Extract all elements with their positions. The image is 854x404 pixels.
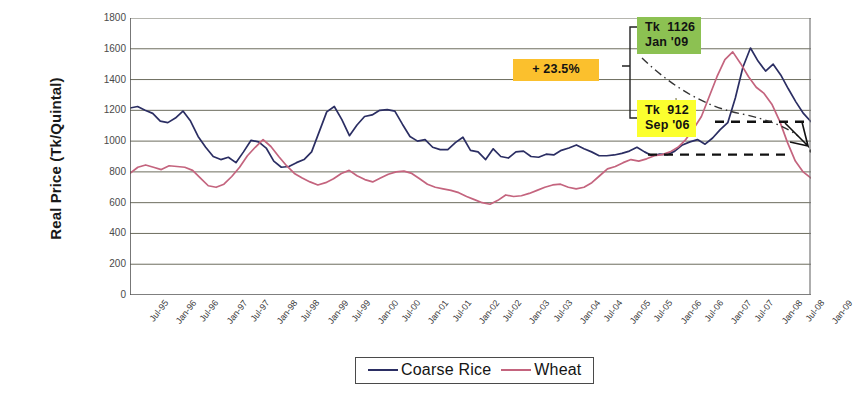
x-axis-tick-label: Jan-96 bbox=[174, 298, 199, 326]
x-axis-tick-label: Jan-98 bbox=[275, 298, 300, 326]
x-axis-tick-label: Jan-05 bbox=[628, 298, 653, 326]
legend-item-wheat: Wheat bbox=[501, 361, 581, 379]
chart-legend: Coarse Rice Wheat bbox=[355, 357, 594, 384]
x-axis-tick-label: Jul-97 bbox=[248, 298, 271, 323]
x-axis-tick-label: Jan-99 bbox=[325, 298, 350, 326]
gridlines bbox=[130, 18, 811, 295]
x-axis-tick-label: Jan-06 bbox=[678, 298, 703, 326]
trend-arrowhead bbox=[785, 122, 808, 146]
legend-swatch-wheat bbox=[501, 369, 531, 371]
y-axis-tick-label: 1800 bbox=[92, 13, 126, 23]
y-axis-title: Real Price (Tk/Quintal) bbox=[47, 9, 64, 309]
y-axis-tick-labels: 180016001400120010008006004002000 bbox=[88, 0, 126, 310]
x-axis-tick-label: Jul-07 bbox=[753, 298, 776, 323]
x-axis-tick-label: Jul-00 bbox=[400, 298, 423, 323]
series-line-wheat bbox=[130, 52, 811, 204]
x-axis-tick-label: Jan-04 bbox=[577, 298, 602, 326]
x-axis-tick-label: Jul-03 bbox=[551, 298, 574, 323]
x-axis-tick-label: Jul-05 bbox=[652, 298, 675, 323]
legend-label-coarse-rice: Coarse Rice bbox=[401, 361, 491, 379]
x-axis-tick-label: Jul-04 bbox=[601, 298, 624, 323]
x-axis-tick-label: Jul-06 bbox=[702, 298, 725, 323]
y-axis-tick-label: 800 bbox=[92, 167, 126, 177]
y-axis-tick-label: 0 bbox=[92, 290, 126, 300]
x-axis-tick-label: Jul-99 bbox=[349, 298, 372, 323]
y-axis-tick-label: 1400 bbox=[92, 75, 126, 85]
legend-label-wheat: Wheat bbox=[534, 361, 581, 379]
x-axis-tick-label: Jul-95 bbox=[147, 298, 170, 323]
x-axis-tick-label: Jan-08 bbox=[779, 298, 804, 326]
y-axis-tick-label: 200 bbox=[92, 259, 126, 269]
y-axis-tick-label: 1000 bbox=[92, 136, 126, 146]
x-axis-tick-label: Jan-09 bbox=[830, 298, 854, 326]
plot-area bbox=[130, 18, 811, 295]
x-axis-tick-label: Jan-00 bbox=[376, 298, 401, 326]
x-axis-tick-label: Jul-02 bbox=[501, 298, 524, 323]
series-line-coarse-rice bbox=[130, 48, 811, 167]
y-axis-tick-label: 1200 bbox=[92, 105, 126, 115]
legend-swatch-coarse-rice bbox=[368, 369, 398, 371]
plot-canvas bbox=[130, 18, 811, 295]
legend-item-coarse-rice: Coarse Rice bbox=[368, 361, 491, 379]
y-axis-tick-label: 400 bbox=[92, 228, 126, 238]
x-axis-tick-labels: Jul-95Jan-96Jul-96Jan-97Jul-97Jan-98Jul-… bbox=[130, 298, 820, 358]
x-axis-tick-label: Jul-01 bbox=[450, 298, 473, 323]
x-axis-tick-label: Jan-97 bbox=[224, 298, 249, 326]
y-axis-tick-label: 600 bbox=[92, 198, 126, 208]
x-axis-tick-label: Jan-07 bbox=[729, 298, 754, 326]
x-axis-tick-label: Jul-98 bbox=[299, 298, 322, 323]
x-axis-tick-label: Jan-01 bbox=[426, 298, 451, 326]
peak-price-callout: Tk 1126 Jan '09 bbox=[637, 17, 701, 54]
data-series-layer bbox=[130, 48, 811, 204]
base-price-callout: Tk 912 Sep '06 bbox=[637, 100, 696, 137]
x-axis-tick-label: Jul-96 bbox=[198, 298, 221, 323]
y-axis-tick-label: 1600 bbox=[92, 44, 126, 54]
x-axis-tick-label: Jan-02 bbox=[476, 298, 501, 326]
price-increase-badge: + 23.5% bbox=[513, 59, 599, 81]
x-axis-tick-label: Jan-03 bbox=[527, 298, 552, 326]
x-axis-tick-label: Jul-08 bbox=[803, 298, 826, 323]
